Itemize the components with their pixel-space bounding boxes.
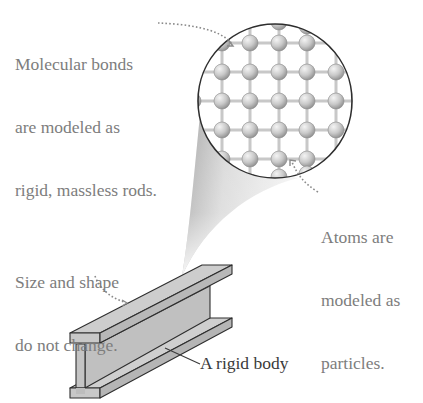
bonds-leader <box>158 23 233 46</box>
rigid-body-diagram: Molecular bonds are modeled as rigid, ma… <box>0 0 423 403</box>
bonds-line-2: are modeled as <box>15 117 157 138</box>
bonds-annotation: Molecular bonds are modeled as rigid, ma… <box>15 12 157 243</box>
shape-line-2: do not change. <box>15 335 119 356</box>
atoms-line-3: particles. <box>321 353 400 374</box>
atoms-line-1: Atoms are <box>321 227 400 248</box>
rigid-body-label: A rigid body <box>200 353 288 374</box>
atoms-annotation: Atoms are modeled as particles. <box>321 185 400 403</box>
shape-line-1: Size and shape <box>15 272 119 293</box>
shape-annotation: Size and shape do not change. <box>15 230 119 398</box>
atoms-line-2: modeled as <box>321 290 400 311</box>
bonds-line-1: Molecular bonds <box>15 54 157 75</box>
bonds-line-3: rigid, massless rods. <box>15 180 157 201</box>
